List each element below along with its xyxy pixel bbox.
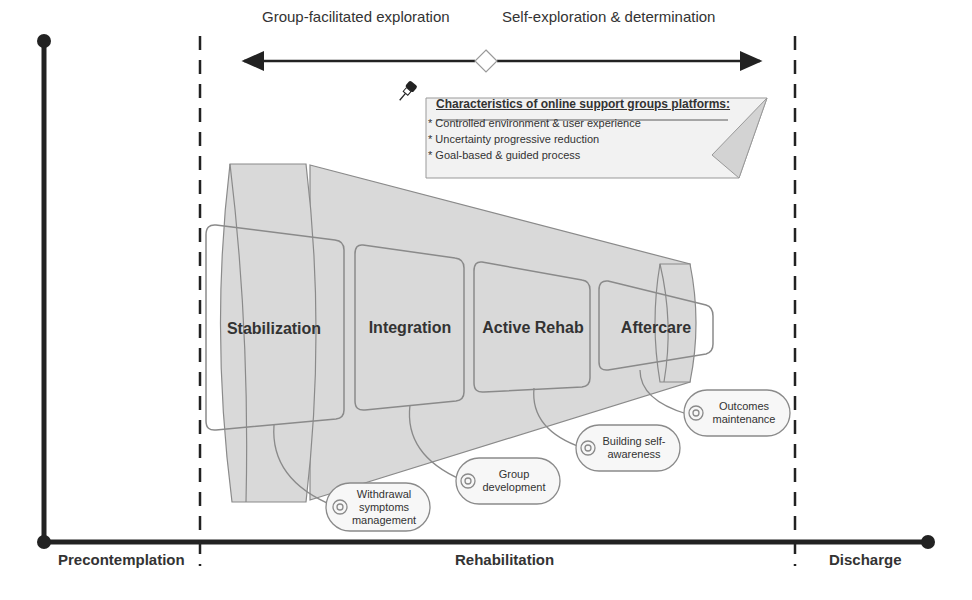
goal-label-outcomes: Outcomes maintenance (713, 400, 776, 426)
phase-label-discharge: Discharge (829, 551, 902, 568)
note-content: Characteristics of online support groups… (424, 96, 734, 163)
stage-label-active-rehab: Active Rehab (482, 319, 583, 337)
axis-origin-dot (37, 535, 51, 549)
arrow-label-right: Self-exploration & determination (502, 8, 715, 25)
phase-label-rehabilitation: Rehabilitation (455, 551, 554, 568)
stage-label-integration: Integration (369, 319, 452, 337)
direction-arrows (244, 50, 760, 72)
rehabilitation-funnel-diagram (0, 0, 972, 600)
goal-label-self-awareness: Building self- awareness (603, 435, 666, 461)
goal-label-group: Group development (483, 468, 546, 494)
note-item: Uncertainty progressive reduction (428, 131, 734, 147)
goal-label-withdrawal: Withdrawal symptoms management (352, 488, 416, 527)
axis-end-dot (921, 535, 935, 549)
note-item: Goal-based & guided process (428, 147, 734, 163)
pushpin-icon (396, 80, 418, 103)
axis-top-dot (37, 34, 51, 48)
diamond-center (475, 50, 497, 72)
stage-label-stabilization: Stabilization (227, 320, 321, 338)
stage-label-aftercare: Aftercare (621, 319, 691, 337)
note-title: Characteristics of online support groups… (436, 96, 734, 112)
note-item: Controlled environment & user experience (428, 115, 734, 131)
phase-label-precontemplation: Precontemplation (58, 551, 185, 568)
arrow-label-left: Group-facilitated exploration (262, 8, 450, 25)
